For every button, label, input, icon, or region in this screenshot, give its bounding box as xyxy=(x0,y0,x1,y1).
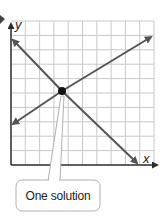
callout-pointer xyxy=(48,96,64,181)
section-marker-icon xyxy=(0,15,5,24)
intersection-point xyxy=(58,87,66,95)
grid xyxy=(11,21,154,165)
decreasing-line xyxy=(13,40,62,91)
x-axis-label: x xyxy=(143,151,150,166)
y-axis-label: y xyxy=(15,17,22,32)
system-of-equations-graph: y x One solution xyxy=(0,0,164,222)
callout-text: One solution xyxy=(16,182,100,210)
